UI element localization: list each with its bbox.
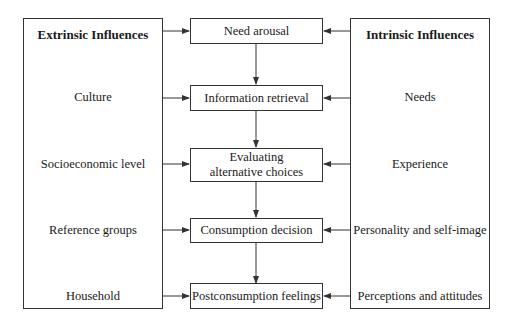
stage-information-retrieval: Information retrieval (190, 85, 323, 111)
extrinsic-item-socioeconomic: Socioeconomic level (24, 157, 162, 172)
intrinsic-item-experience: Experience (351, 157, 489, 172)
intrinsic-item-needs: Needs (351, 90, 489, 105)
stage-evaluating-alternatives: Evaluating alternative choices (190, 148, 323, 182)
extrinsic-item-household: Household (24, 289, 162, 304)
intrinsic-item-personality: Personality and self-image (351, 223, 489, 238)
extrinsic-influences-box: Extrinsic Influences Culture Socioeconom… (23, 18, 163, 309)
stage-postconsumption-feelings: Postconsumption feelings (190, 283, 323, 309)
extrinsic-item-culture: Culture (24, 90, 162, 105)
stage-need-arousal: Need arousal (190, 18, 323, 44)
extrinsic-item-reference-groups: Reference groups (24, 223, 162, 238)
stage-consumption-decision: Consumption decision (190, 218, 323, 243)
extrinsic-title: Extrinsic Influences (24, 27, 162, 43)
intrinsic-influences-box: Intrinsic Influences Needs Experience Pe… (350, 18, 490, 309)
intrinsic-item-perceptions: Perceptions and attitudes (351, 289, 489, 304)
intrinsic-title: Intrinsic Influences (351, 27, 489, 43)
